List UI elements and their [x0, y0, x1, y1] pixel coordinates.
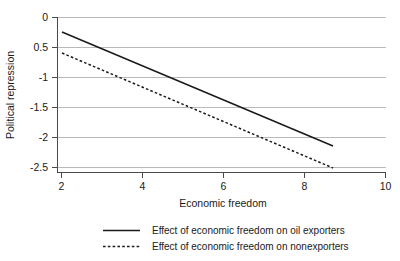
x-tick-label-2: 6 — [221, 180, 227, 192]
y-axis-title: Political repression — [4, 51, 16, 139]
x-tick-label-1: 4 — [140, 180, 146, 192]
y-tick-label-0: 0 — [42, 11, 48, 23]
gridlines — [57, 18, 386, 168]
chart-figure: 0 0.5 -1 -1.5 -2 -2.5 2 4 6 8 10 Economi… — [0, 0, 400, 261]
legend-entry-nonexporters[interactable]: Effect of economic freedom on nonexporte… — [103, 241, 349, 252]
y-tick-label-1: 0.5 — [33, 41, 48, 53]
x-tick-label-4: 10 — [380, 180, 392, 192]
y-tick-label-5: -2.5 — [30, 161, 48, 173]
line-chart: 0 0.5 -1 -1.5 -2 -2.5 2 4 6 8 10 Economi… — [0, 0, 400, 261]
x-tick-label-0: 2 — [59, 180, 65, 192]
x-tick-label-3: 8 — [302, 180, 308, 192]
legend: Effect of economic freedom on oil export… — [103, 225, 349, 252]
series-group — [62, 32, 333, 168]
x-axis-title: Economic freedom — [179, 197, 267, 209]
series-nonexporters-line — [62, 53, 333, 168]
y-tick-label-2: -1 — [39, 71, 48, 83]
y-tick-marks — [52, 18, 57, 168]
legend-label-nonexporters: Effect of economic freedom on nonexporte… — [152, 241, 349, 252]
y-tick-label-4: -2 — [39, 131, 48, 143]
legend-entry-oil-exporters[interactable]: Effect of economic freedom on oil export… — [103, 225, 345, 236]
y-tick-label-3: -1.5 — [30, 101, 48, 113]
legend-label-oil-exporters: Effect of economic freedom on oil export… — [152, 225, 345, 236]
series-oil-exporters-line — [62, 32, 333, 146]
